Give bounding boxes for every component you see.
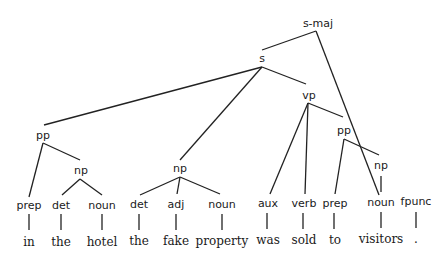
word: property: [196, 234, 249, 248]
parse-tree: s-maj s pp np np vp pp np prep det noun …: [0, 0, 446, 258]
edge-smaj-fpunc: [316, 31, 379, 195]
edge-smaj-s: [262, 31, 316, 50]
edge-vp-aux: [270, 103, 308, 194]
edge-np2-adj: [177, 177, 180, 194]
edge-np2-det: [140, 177, 180, 195]
word: to: [329, 233, 341, 247]
node-np: np: [74, 164, 88, 177]
node-np: np: [374, 159, 388, 172]
edge-s-vp: [262, 67, 306, 84]
word: visitors: [358, 232, 404, 246]
node-pp: pp: [337, 124, 351, 137]
tag-noun: noun: [208, 198, 236, 211]
edge-vp-pp: [308, 103, 343, 117]
tag-prep: prep: [16, 199, 41, 212]
nonterminal-labels: s-maj s pp np np vp pp np: [36, 17, 388, 177]
tag-adj: adj: [168, 198, 185, 211]
edge-s-np: [180, 67, 262, 160]
edge-pp2-np: [344, 139, 379, 155]
node-np: np: [173, 162, 187, 175]
edge-pp2-prep: [335, 139, 344, 194]
preterminal-labels: prep det noun det adj noun aux verb prep…: [16, 195, 431, 212]
word: was: [256, 233, 280, 247]
tag-noun: noun: [88, 199, 116, 212]
edge-np2-noun: [180, 177, 220, 194]
word: hotel: [87, 235, 118, 249]
tag-det: det: [130, 198, 149, 211]
node-pp: pp: [36, 129, 50, 142]
edge-pp-np: [43, 143, 80, 160]
word: .: [414, 232, 418, 246]
tag-verb: verb: [292, 197, 317, 210]
tag-aux: aux: [258, 197, 279, 210]
word: the: [129, 234, 149, 248]
node-vp: vp: [302, 89, 316, 102]
edge-pp-prep: [29, 143, 43, 197]
edge-np1-det: [62, 179, 80, 195]
edge-vp-verb: [305, 103, 308, 194]
word: the: [51, 235, 71, 249]
tag-noun: noun: [367, 196, 395, 209]
tag-det: det: [52, 199, 71, 212]
node-s: s: [259, 52, 265, 65]
edge-s-pp: [44, 67, 262, 125]
node-s-maj: s-maj: [303, 17, 333, 30]
tag-prep: prep: [322, 197, 347, 210]
edge-np1-noun: [80, 179, 102, 195]
word: fake: [163, 234, 189, 248]
word: in: [23, 235, 35, 249]
sentence-words: in the hotel the fake property was sold …: [23, 232, 418, 249]
tag-fpunc: fpunc: [401, 195, 432, 208]
word: sold: [292, 233, 317, 247]
